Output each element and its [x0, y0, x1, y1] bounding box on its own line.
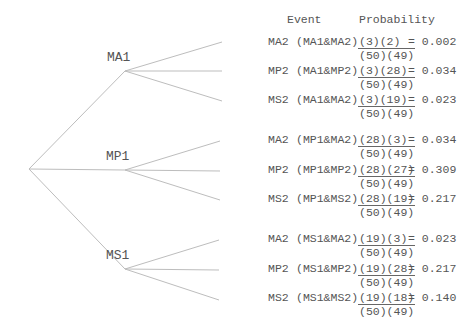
fraction: (3)(28)(50)(49) [358, 64, 415, 91]
event-label: MA2 [268, 232, 289, 245]
fraction: (19)(18)(50)(49) [358, 291, 415, 318]
fraction: (3)(2)(50)(49) [358, 35, 415, 62]
event-label: MA2 [268, 133, 289, 146]
probability-value: = 0.140 [408, 291, 456, 304]
numerator: (19)(3) [358, 232, 415, 246]
joint-event: (MS1&MA2) [296, 232, 358, 245]
joint-event: (MS1&MS2) [296, 291, 358, 304]
node-label-ma1: MA1 [107, 50, 130, 65]
event-label: MP2 [268, 262, 289, 275]
fraction: (3)(19)(50)(49) [358, 93, 415, 120]
joint-event: (MA1&MP2) [296, 64, 358, 77]
header-probability: Probability [359, 13, 435, 26]
probability-value: = 0.023 [408, 232, 456, 245]
probability-value: = 0.023 [408, 93, 456, 106]
probability-value: = 0.217 [408, 262, 456, 275]
joint-event: (MP1&MS2) [296, 192, 358, 205]
node-label-ms1: MS1 [106, 248, 129, 263]
fraction: (19)(3)(50)(49) [358, 232, 415, 259]
numerator: (28)(19) [358, 192, 415, 206]
denominator: (50)(49) [358, 78, 415, 91]
probability-value: = 0.002 [408, 35, 456, 48]
probability-value: = 0.309 [408, 163, 456, 176]
branch-root-mp1 [29, 169, 125, 170]
probability-value: = 0.034 [408, 64, 456, 77]
denominator: (50)(49) [358, 107, 415, 120]
denominator: (50)(49) [358, 147, 415, 160]
joint-event: (MS1&MP2) [296, 262, 358, 275]
event-label: MP2 [268, 163, 289, 176]
probability-value: = 0.217 [408, 192, 456, 205]
numerator: (28)(27) [358, 163, 415, 177]
joint-event: (MP1&MP2) [296, 163, 358, 176]
joint-event: (MA1&MA2) [296, 93, 358, 106]
fraction: (28)(3)(50)(49) [358, 133, 415, 160]
numerator: (3)(2) [358, 35, 415, 49]
denominator: (50)(49) [358, 276, 415, 289]
denominator: (50)(49) [358, 49, 415, 62]
event-label: MS2 [268, 93, 289, 106]
event-label: MP2 [268, 64, 289, 77]
event-label: MS2 [268, 192, 289, 205]
numerator: (28)(3) [358, 133, 415, 147]
fraction: (28)(19)(50)(49) [358, 192, 415, 219]
node-label-mp1: MP1 [106, 149, 129, 164]
event-label: MA2 [268, 35, 289, 48]
numerator: (19)(28) [358, 262, 415, 276]
header-event: Event [287, 13, 322, 26]
joint-event: (MA1&MA2) [296, 35, 358, 48]
denominator: (50)(49) [358, 206, 415, 219]
numerator: (19)(18) [358, 291, 415, 305]
denominator: (50)(49) [358, 177, 415, 190]
denominator: (50)(49) [358, 305, 415, 318]
numerator: (3)(28) [358, 64, 415, 78]
event-label: MS2 [268, 291, 289, 304]
denominator: (50)(49) [358, 246, 415, 259]
numerator: (3)(19) [358, 93, 415, 107]
fraction: (28)(27)(50)(49) [358, 163, 415, 190]
fraction: (19)(28)(50)(49) [358, 262, 415, 289]
joint-event: (MP1&MA2) [296, 133, 358, 146]
probability-value: = 0.034 [408, 133, 456, 146]
